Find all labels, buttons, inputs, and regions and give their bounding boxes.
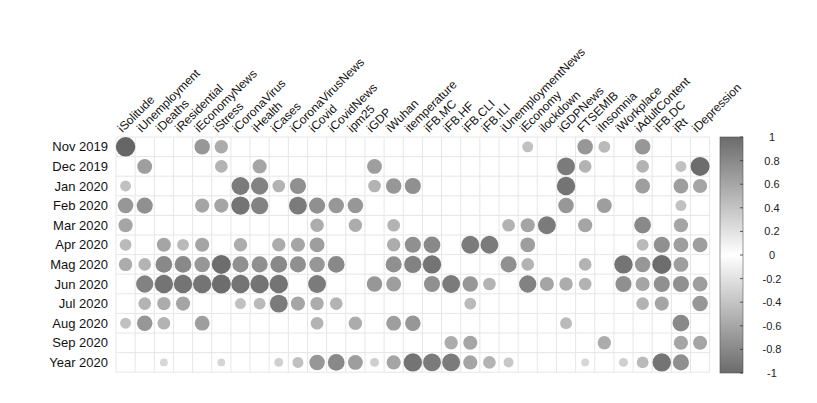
- correlation-circle: [232, 177, 250, 195]
- correlation-circle: [597, 198, 612, 213]
- correlation-circle: [119, 258, 132, 271]
- correlation-circle: [270, 256, 287, 273]
- correlation-circle: [521, 218, 535, 232]
- correlation-circle: [251, 177, 268, 194]
- correlation-circle: [120, 318, 131, 329]
- correlation-circle: [521, 258, 534, 271]
- correlation-circle: [138, 258, 151, 271]
- correlation-circle: [292, 357, 303, 368]
- correlation-circle: [328, 354, 345, 371]
- correlation-circle: [442, 353, 460, 371]
- correlation-circle: [444, 336, 457, 349]
- correlation-circle: [214, 199, 228, 213]
- correlation-circle: [252, 256, 268, 272]
- correlation-circle: [463, 276, 478, 291]
- correlation-circle: [558, 198, 573, 213]
- correlation-circle: [442, 275, 460, 293]
- correlation-circle: [274, 358, 283, 367]
- correlation-circle: [370, 358, 379, 367]
- correlation-circle: [653, 353, 671, 371]
- correlation-circle: [581, 359, 589, 367]
- correlation-circle: [195, 316, 210, 331]
- row-label: Sep 2020: [52, 335, 108, 350]
- correlation-circle: [309, 198, 325, 214]
- correlation-circle: [557, 177, 575, 195]
- correlation-circle: [464, 298, 476, 310]
- row-label: Dec 2019: [52, 159, 108, 174]
- correlation-circle: [290, 256, 306, 272]
- correlation-circle: [520, 237, 535, 252]
- colorbar: 10.80.60.40.20-0.2-0.4-0.6-0.8-1: [720, 131, 781, 379]
- correlation-circle: [308, 275, 326, 293]
- correlation-circle: [386, 256, 402, 272]
- colorbar-tick-label: -1: [767, 367, 777, 379]
- row-label: Jul 2020: [59, 296, 108, 311]
- correlation-circle: [615, 276, 631, 292]
- correlation-circle: [176, 297, 190, 311]
- correlation-circle: [635, 139, 650, 154]
- colorbar-tick-label: 0: [769, 249, 775, 261]
- correlation-circle: [235, 298, 246, 309]
- correlation-circle: [157, 238, 171, 252]
- correlation-circle: [637, 239, 649, 251]
- correlation-circle: [519, 275, 536, 292]
- colorbar-tick-label: 0.4: [764, 202, 779, 214]
- correlation-circle: [231, 196, 249, 214]
- colorbar-tick-label: 0.8: [764, 155, 779, 167]
- correlation-circle: [234, 238, 247, 251]
- correlation-circle: [217, 359, 225, 367]
- correlation-circle: [424, 276, 440, 292]
- row-label: Jun 2020: [55, 277, 109, 292]
- colorbar-tick-label: 0.6: [764, 178, 779, 190]
- correlation-circle: [289, 197, 307, 215]
- correlation-circle: [348, 355, 363, 370]
- correlation-circle: [635, 179, 650, 194]
- correlation-circle: [598, 336, 611, 349]
- correlation-circle: [579, 278, 592, 291]
- correlation-circle: [116, 137, 135, 156]
- correlation-circle: [614, 255, 632, 273]
- correlation-circle: [270, 295, 288, 313]
- correlation-circle: [193, 275, 211, 293]
- correlation-circle: [673, 315, 690, 332]
- correlation-circle: [691, 157, 710, 176]
- correlation-circle: [137, 315, 152, 330]
- correlation-circle: [483, 356, 496, 369]
- column-label: iDepression: [689, 80, 744, 135]
- colorbar-tick-label: -0.8: [763, 343, 782, 355]
- correlation-circle: [119, 218, 133, 232]
- correlation-circle: [387, 238, 400, 251]
- row-labels: Nov 2019Dec 2019Jan 2020Feb 2020Mar 2020…: [49, 139, 108, 370]
- correlation-circle: [578, 218, 592, 232]
- correlation-circle: [328, 256, 345, 273]
- colorbar-tick-label: -0.2: [763, 273, 782, 285]
- correlation-circle: [387, 355, 401, 369]
- colorbar-tick-label: 1: [769, 131, 775, 143]
- correlation-circle: [311, 317, 324, 330]
- correlation-circle: [160, 359, 168, 367]
- row-label: Mar 2020: [53, 218, 108, 233]
- row-label: Feb 2020: [53, 198, 108, 213]
- correlation-circle: [674, 257, 689, 272]
- correlation-circle: [309, 355, 324, 370]
- colorbar-tick-label: -0.6: [763, 320, 782, 332]
- correlation-circle: [557, 157, 575, 175]
- correlation-circle: [579, 160, 592, 173]
- correlation-circle: [461, 236, 479, 254]
- correlation-circle: [654, 237, 670, 253]
- correlation-circle: [424, 236, 441, 253]
- correlation-circle: [386, 316, 401, 331]
- correlation-circle: [538, 216, 556, 234]
- correlation-circle: [423, 353, 441, 371]
- correlation-circle: [674, 237, 689, 252]
- correlation-circle: [675, 200, 686, 211]
- correlation-circle: [118, 198, 133, 213]
- correlation-circle: [636, 297, 649, 310]
- correlation-circle: [522, 141, 533, 152]
- correlation-circle: [540, 277, 554, 291]
- correlation-matrix-chart: Nov 2019Dec 2019Jan 2020Feb 2020Mar 2020…: [0, 0, 817, 403]
- correlation-circle: [349, 316, 362, 329]
- colorbar-tick-label: -0.4: [763, 296, 782, 308]
- row-label: Apr 2020: [55, 237, 108, 252]
- correlation-circle: [330, 297, 343, 310]
